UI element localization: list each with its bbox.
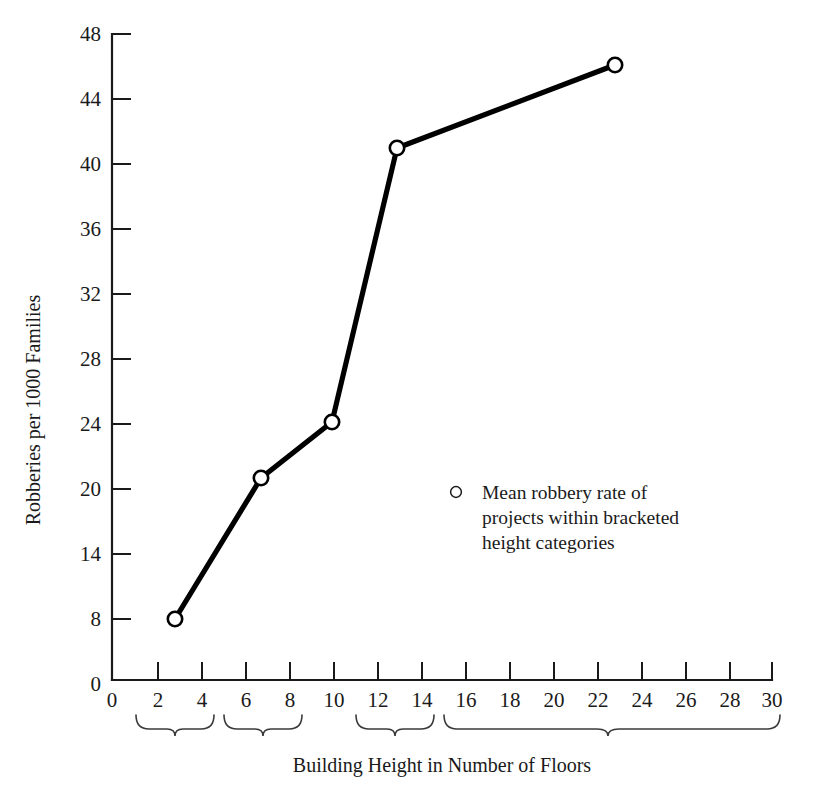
data-point-marker[interactable] <box>608 58 622 72</box>
y-tick-label-24: 24 <box>80 412 102 436</box>
x-tick-label-10: 10 <box>324 688 345 712</box>
x-tick-label-22: 22 <box>588 688 609 712</box>
x-tick-label-26: 26 <box>676 688 697 712</box>
y-tick-label-44: 44 <box>80 87 102 111</box>
bracket-category-3 <box>356 715 434 736</box>
legend-line-3: height categories <box>482 532 615 553</box>
x-tick-label-0: 0 <box>107 688 118 712</box>
legend-line-2: projects within bracketed <box>482 507 679 528</box>
y-tick-label-36: 36 <box>80 217 101 241</box>
line-chart-canvas: 48 44 40 36 32 28 24 20 14 8 0 <box>0 0 818 791</box>
bracket-category-4 <box>444 715 780 736</box>
x-tick-label-20: 20 <box>544 688 565 712</box>
data-point-marker[interactable] <box>168 612 182 626</box>
x-axis-tick-labels: 0 2 4 6 8 10 12 14 16 18 20 22 24 26 28 … <box>107 688 783 712</box>
x-tick-label-2: 2 <box>153 688 164 712</box>
bracket-category-2 <box>224 715 302 736</box>
y-axis-tickmarks <box>112 34 131 619</box>
y-tick-label-48: 48 <box>80 22 101 46</box>
y-axis-tick-labels: 48 44 40 36 32 28 24 20 14 8 0 <box>80 22 102 696</box>
x-tick-label-16: 16 <box>456 688 477 712</box>
y-tick-label-20: 20 <box>80 477 101 501</box>
y-axis-title: Robberies per 1000 Families <box>22 295 45 526</box>
x-axis-tickmarks <box>158 662 772 680</box>
y-tick-label-40: 40 <box>80 152 101 176</box>
data-point-marker[interactable] <box>390 141 404 155</box>
bracket-group <box>136 715 780 736</box>
x-tick-label-4: 4 <box>197 688 208 712</box>
data-point-marker[interactable] <box>254 471 268 485</box>
x-tick-label-24: 24 <box>632 688 654 712</box>
y-tick-label-28: 28 <box>80 347 101 371</box>
y-tick-label-8: 8 <box>91 607 102 631</box>
legend-line-1: Mean robbery rate of <box>482 482 648 503</box>
x-tick-label-18: 18 <box>500 688 521 712</box>
x-tick-label-6: 6 <box>241 688 252 712</box>
legend: Mean robbery rate of projects within bra… <box>451 482 680 553</box>
x-axis-title: Building Height in Number of Floors <box>293 754 592 777</box>
legend-marker-icon <box>451 487 462 498</box>
x-tick-label-12: 12 <box>368 688 389 712</box>
chart-figure: 48 44 40 36 32 28 24 20 14 8 0 <box>0 0 818 791</box>
x-tick-label-8: 8 <box>285 688 296 712</box>
x-tick-label-28: 28 <box>720 688 741 712</box>
y-tick-label-0: 0 <box>91 672 102 696</box>
y-tick-label-16: 14 <box>80 542 102 566</box>
x-tick-label-14: 14 <box>412 688 434 712</box>
x-tick-label-30: 30 <box>762 688 783 712</box>
data-point-marker[interactable] <box>325 415 339 429</box>
bracket-category-1 <box>136 715 214 736</box>
y-tick-label-32: 32 <box>80 282 101 306</box>
